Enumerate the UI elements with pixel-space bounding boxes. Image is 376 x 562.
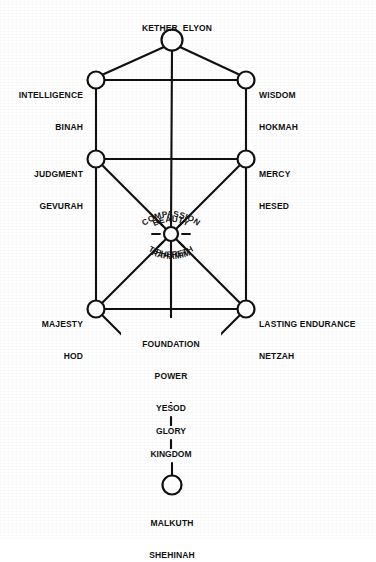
node-hokmah[interactable] xyxy=(238,72,255,89)
label-malkuth-hebrew: SHEHINAH xyxy=(122,550,222,561)
label-malkuth-english: MALKUTH xyxy=(122,518,222,529)
label-foundation-english: FOUNDATION xyxy=(121,339,221,350)
edge-kether-binah xyxy=(104,47,164,74)
node-netzah[interactable] xyxy=(238,301,255,318)
label-hod-hebrew: HOD xyxy=(0,351,83,362)
label-netzah-hebrew: NETZAH xyxy=(259,351,375,362)
label-netzah-english: LASTING ENDURANCE xyxy=(259,319,375,330)
label-gevurah-english: JUDGMENT xyxy=(0,169,83,180)
ray-sw xyxy=(158,242,163,247)
label-hesed-english: MERCY xyxy=(259,169,369,180)
label-binah: INTELLIGENCE BINAH xyxy=(0,69,83,153)
ray-se xyxy=(179,242,184,247)
label-malkuth: MALKUTH SHEHINAH xyxy=(122,497,222,562)
label-binah-english: INTELLIGENCE xyxy=(0,90,83,101)
label-hokmah-english: WISDOM xyxy=(259,90,369,101)
spine-label-yesod: YESOD xyxy=(136,403,206,413)
edge-kether-hokmah xyxy=(180,47,238,74)
label-hod-english: MAJESTY xyxy=(0,319,83,330)
edge-kether-tiphereth xyxy=(171,51,172,227)
label-hesed: MERCY HESED xyxy=(259,148,369,232)
label-foundation-hebrew: POWER xyxy=(121,371,221,382)
spine-label-kingdom: KINGDOM xyxy=(131,449,211,459)
label-binah-hebrew: BINAH xyxy=(0,122,83,133)
node-malkuth[interactable] xyxy=(163,476,182,495)
label-hokmah-hebrew: HOKMAH xyxy=(259,122,369,133)
label-gevurah-hebrew: GEVURAH xyxy=(0,201,83,212)
label-kether-text: KETHER ELYON xyxy=(142,23,212,33)
node-gevurah[interactable] xyxy=(88,151,105,168)
label-hokmah: WISDOM HOKMAH xyxy=(259,69,369,153)
node-tiphereth[interactable] xyxy=(164,227,178,241)
label-hesed-hebrew: HESED xyxy=(259,201,369,212)
label-hod: MAJESTY HOD xyxy=(0,298,83,382)
node-binah[interactable] xyxy=(88,72,105,89)
node-hesed[interactable] xyxy=(238,151,255,168)
label-gevurah: JUDGMENT GEVURAH xyxy=(0,148,83,232)
label-netzah: LASTING ENDURANCE NETZAH xyxy=(259,298,375,382)
label-foundation: FOUNDATION POWER xyxy=(121,318,221,402)
node-hod[interactable] xyxy=(88,301,105,318)
label-kether: KETHER ELYON xyxy=(102,12,242,44)
spine-label-glory: GLORY xyxy=(136,426,206,436)
